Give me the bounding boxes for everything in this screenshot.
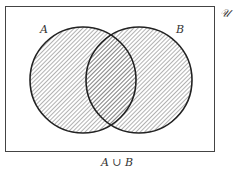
caption: A ∪ B: [100, 156, 133, 169]
universe-label: 𝒰: [220, 7, 233, 20]
venn-diagram: A B 𝒰 A ∪ B: [0, 0, 234, 172]
set-b-label: B: [175, 23, 184, 36]
set-a-label: A: [39, 23, 48, 36]
